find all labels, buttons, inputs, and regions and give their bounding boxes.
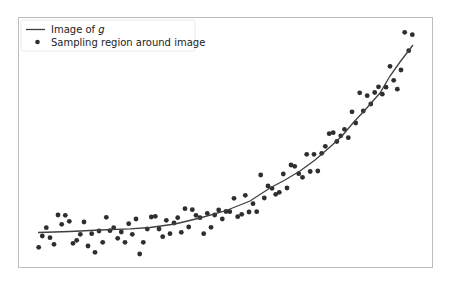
scatter-point	[292, 164, 297, 169]
scatter-point	[52, 242, 57, 247]
scatter-point	[149, 215, 154, 220]
scatter-point	[304, 152, 309, 157]
scatter-point	[56, 213, 61, 218]
scatter-point	[391, 78, 396, 83]
scatter-point	[164, 218, 169, 223]
scatter-point	[175, 215, 180, 220]
scatter-point	[59, 222, 64, 227]
scatter-point	[262, 196, 267, 201]
scatter-point	[281, 172, 286, 177]
scatter-point	[258, 173, 263, 178]
scatter-point	[327, 131, 332, 136]
scatter-point	[232, 196, 237, 201]
scatter-point	[220, 217, 225, 222]
scatter-point	[179, 230, 184, 235]
scatter-point	[44, 225, 49, 230]
scatter-point	[183, 206, 188, 211]
scatter-point	[312, 152, 317, 157]
scatter-point	[74, 238, 79, 243]
scatter-point	[239, 212, 244, 217]
chart: Image of g Sampling region around image	[0, 0, 451, 282]
scatter-point	[308, 169, 313, 174]
scatter-point	[331, 130, 336, 135]
legend: Image of g Sampling region around image	[21, 20, 205, 51]
legend-dot-marker	[35, 40, 40, 45]
scatter-point	[395, 87, 400, 92]
scatter-point	[104, 215, 109, 220]
scatter-point	[372, 90, 377, 95]
scatter-point	[141, 240, 146, 245]
scatter-point	[71, 241, 76, 246]
scatter-point	[190, 207, 195, 212]
scatter-point	[323, 144, 328, 149]
scatter-point	[97, 229, 102, 234]
scatter-point	[160, 234, 165, 239]
scatter-point	[235, 214, 240, 219]
scatter-point	[277, 190, 282, 195]
scatter-point	[82, 220, 87, 225]
scatter-point	[89, 231, 94, 236]
scatter-point	[123, 240, 128, 245]
scatter-point	[410, 32, 415, 37]
scatter-point	[251, 201, 256, 206]
scatter-point	[40, 234, 45, 239]
scatter-point	[247, 210, 252, 215]
scatter-point	[357, 90, 362, 95]
scatter-point	[350, 109, 355, 114]
scatter-point	[201, 231, 206, 236]
scatter-point	[168, 231, 173, 236]
scatter-point	[119, 230, 124, 235]
legend-label-sampling-region: Sampling region around image	[51, 37, 205, 48]
plot-frame	[19, 18, 433, 268]
scatter-point	[67, 219, 72, 224]
scatter-point	[63, 213, 68, 218]
scatter-point	[115, 236, 120, 241]
scatter-point	[254, 209, 259, 214]
scatter-point	[346, 135, 351, 140]
scatter-point	[376, 84, 381, 89]
scatter-point	[137, 252, 142, 257]
scatter-point	[78, 232, 83, 237]
scatter-point	[130, 232, 135, 237]
scatter-point	[93, 250, 98, 255]
scatter-point	[365, 93, 370, 98]
scatter-point	[243, 193, 248, 198]
scatter-point	[100, 240, 105, 245]
scatter-point	[126, 221, 131, 226]
scatter-point	[134, 217, 139, 222]
scatter-point	[399, 68, 404, 73]
scatter-point	[48, 235, 53, 240]
scatter-point	[285, 186, 290, 191]
scatter-point	[36, 245, 41, 250]
scatter-point	[209, 225, 214, 230]
scatter-point	[194, 213, 199, 218]
scatter-point	[186, 225, 191, 230]
scatter-point	[402, 30, 407, 35]
legend-label-image-of-g: Image of g	[51, 24, 105, 35]
scatter-point	[300, 175, 305, 180]
scatter-point	[153, 214, 158, 219]
scatter-point	[86, 244, 91, 249]
scatter-point	[388, 64, 393, 69]
scatter-point	[315, 169, 320, 174]
scatter-point	[157, 227, 162, 232]
